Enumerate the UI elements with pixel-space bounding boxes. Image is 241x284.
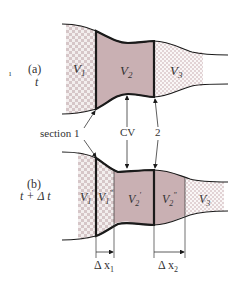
section-2-arrow-b (155, 140, 158, 168)
section-2-arrow-a (155, 99, 158, 127)
region-v3 (154, 41, 203, 97)
dx1-label: Δ x1 (94, 258, 114, 274)
panel-b: V1′ V1″ V2′ V2″ V3 (b) t + Δ t Δ x1 Δ x2 (20, 152, 228, 274)
panel-b-time: t + Δ t (20, 189, 51, 203)
section-2-label: 2 (155, 126, 161, 138)
label-v1-prime: V1′ (80, 189, 93, 206)
label-v2-prime: V2′ (128, 191, 141, 208)
cv-label: CV (120, 126, 135, 138)
panel-a-label: (a) (28, 62, 41, 76)
panel-a: V1 V2 V3 ı (a) t (9, 24, 228, 114)
dx2-label: Δ x2 (158, 258, 178, 274)
control-volume-diagram: V1 V2 V3 ı (a) t section 1 CV 2 (0, 0, 241, 284)
section-1-label: section 1 (40, 127, 79, 139)
stray-mark: ı (9, 69, 12, 78)
section-1-arrow-a (84, 111, 95, 128)
panel-a-time: t (35, 75, 39, 89)
region-v2-double-prime (154, 170, 185, 225)
